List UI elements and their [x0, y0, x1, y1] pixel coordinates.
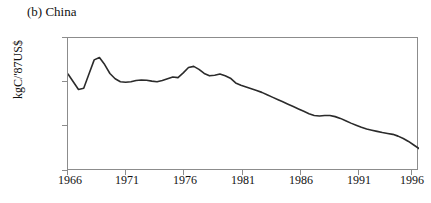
page-title: (b) China	[27, 4, 76, 19]
x-tick-label-1966: 1966	[58, 174, 82, 186]
x-tick-label-1996: 1996	[400, 174, 424, 186]
plot-area	[67, 37, 418, 170]
data-line-china	[68, 58, 419, 149]
x-tick-label-1976: 1976	[173, 174, 197, 186]
line-chart-svg	[68, 38, 419, 171]
x-tick-label-1991: 1991	[347, 174, 371, 186]
x-tick-label-1971: 1971	[115, 174, 139, 186]
chart-figure: (b) China kgC/'87US$ 4.5 3 1.5 0 1966 19…	[0, 0, 431, 203]
x-tick-label-1981: 1981	[231, 174, 255, 186]
y-axis-title: kgC/'87US$	[11, 15, 26, 125]
x-tick-label-1986: 1986	[289, 174, 313, 186]
